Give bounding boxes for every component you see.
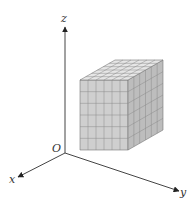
z-axis-label: z [60, 12, 67, 25]
y-axis-label: y [179, 186, 187, 199]
diagram-canvas: z O x y [0, 0, 193, 206]
unit-cube-block [80, 60, 163, 150]
x-axis [18, 153, 65, 177]
coordinate-diagram: z O x y [0, 0, 193, 206]
origin-label: O [52, 142, 61, 155]
x-axis-label: x [9, 173, 16, 186]
y-axis [65, 153, 179, 191]
